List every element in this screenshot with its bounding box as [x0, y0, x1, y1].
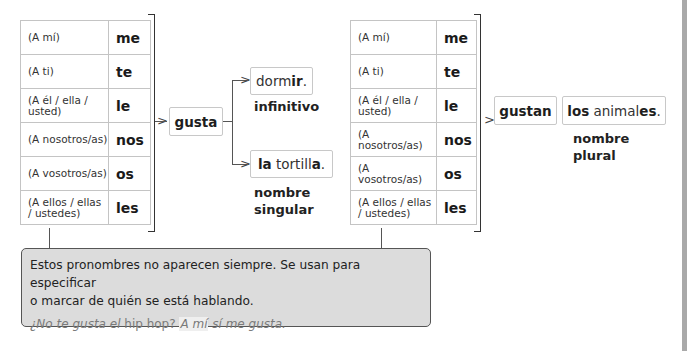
- page-edge-scrollbar: [682, 0, 687, 351]
- row-pronoun: nos: [437, 123, 477, 157]
- table-row: (A nosotros/as)nos: [351, 123, 477, 157]
- note-text-line2: o marcar de quién se está hablando.: [30, 292, 422, 310]
- row-pronoun: le: [109, 89, 151, 123]
- verb-box-gusta: gusta: [169, 107, 223, 136]
- note-box: Estos pronombres no aparecen siempre. Se…: [21, 248, 431, 327]
- table-row: (A ellos / ellas / ustedes)les: [351, 191, 477, 225]
- left-bracket: [148, 14, 155, 232]
- row-pronoun: te: [109, 55, 151, 89]
- caption-nombre-plural: nombreplural: [573, 130, 629, 164]
- row-pronoun: les: [437, 191, 477, 225]
- row-pronoun: te: [437, 55, 477, 89]
- row-label: (A él / ella / usted): [21, 89, 109, 123]
- row-label: (A vosotros/as): [351, 157, 437, 191]
- table-row: (A él / ella / usted)le: [351, 89, 477, 123]
- row-label: (A vosotros/as): [21, 157, 109, 191]
- row-pronoun: os: [437, 157, 477, 191]
- table-row: (A mí)me: [21, 21, 151, 55]
- example-box-la-tortilla: la tortilla.: [250, 150, 333, 178]
- right-pronoun-table: (A mí)me (A ti)te (A él / ella / usted)l…: [350, 20, 477, 225]
- table-row: (A vosotros/as)os: [351, 157, 477, 191]
- row-label: (A él / ella / usted): [351, 89, 437, 123]
- caption-infinitivo: infinitivo: [254, 98, 319, 115]
- note-text-line1: Estos pronombres no aparecen siempre. Se…: [30, 256, 422, 292]
- row-label: (A ti): [21, 55, 109, 89]
- row-label: (A ellos / ellas / ustedes): [351, 191, 437, 225]
- branch-vertical: [232, 80, 233, 164]
- row-label: (A nosotros/as): [21, 123, 109, 157]
- table-row: (A nosotros/as)nos: [21, 123, 151, 157]
- note-example: ¿No te gusta el hip hop? A mí sí me gust…: [30, 315, 422, 333]
- table-row: (A vosotros/as)os: [21, 157, 151, 191]
- row-pronoun: me: [437, 21, 477, 55]
- table-row: (A ti)te: [351, 55, 477, 89]
- row-pronoun: me: [109, 21, 151, 55]
- connector-line: [155, 121, 167, 122]
- row-label: (A mí): [21, 21, 109, 55]
- branch-stub: [223, 121, 232, 122]
- row-pronoun: les: [109, 191, 151, 225]
- row-label: (A ti): [351, 55, 437, 89]
- table-row: (A él / ella / usted)le: [21, 89, 151, 123]
- right-connector-line: [381, 228, 382, 248]
- row-pronoun: le: [437, 89, 477, 123]
- table-row: (A mí)me: [351, 21, 477, 55]
- row-pronoun: nos: [109, 123, 151, 157]
- right-bracket: [474, 14, 481, 232]
- row-pronoun: os: [109, 157, 151, 191]
- example-box-los-animales: los animales.: [562, 96, 666, 125]
- example-box-dormir: dormir.: [250, 67, 313, 95]
- table-row: (A ellos / ellas / ustedes)les: [21, 191, 151, 225]
- verb-box-gustan: gustan: [494, 96, 557, 125]
- caption-nombre-singular: nombresingular: [254, 184, 314, 218]
- left-pronoun-table: (A mí)me (A ti)te (A él / ella / usted)l…: [20, 20, 151, 225]
- row-label: (A mí): [351, 21, 437, 55]
- left-connector-line: [49, 228, 50, 248]
- row-label: (A ellos / ellas / ustedes): [21, 191, 109, 225]
- row-label: (A nosotros/as): [351, 123, 437, 157]
- table-row: (A ti)te: [21, 55, 151, 89]
